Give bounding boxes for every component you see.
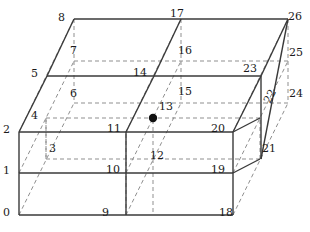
node-label-12: 12	[150, 150, 164, 161]
element-wireframe	[0, 0, 310, 232]
node-label-1: 1	[3, 165, 10, 176]
node-label-8: 8	[58, 12, 65, 23]
visible-edge	[261, 19, 288, 76]
node-label-3: 3	[49, 143, 56, 154]
node-label-13: 13	[159, 101, 173, 112]
node-label-7: 7	[70, 45, 77, 56]
center-node-dot	[149, 114, 157, 122]
node-label-17: 17	[170, 8, 184, 19]
node-label-10: 10	[106, 164, 120, 175]
node-label-25: 25	[289, 47, 303, 58]
node-label-2: 2	[3, 124, 10, 135]
node-label-19: 19	[211, 164, 225, 175]
node-label-9: 9	[102, 207, 109, 218]
node-label-21: 21	[262, 143, 276, 154]
node-label-15: 15	[178, 86, 192, 97]
visible-edge	[233, 159, 260, 173]
node-label-20: 20	[211, 123, 225, 134]
node-label-26: 26	[288, 11, 302, 22]
node-label-5: 5	[31, 68, 38, 79]
node-label-4: 4	[31, 110, 38, 121]
node-label-0: 0	[3, 207, 10, 218]
visible-edge	[19, 76, 47, 132]
visible-edge	[233, 76, 261, 132]
node-label-18: 18	[219, 207, 233, 218]
visible-edge	[154, 19, 181, 76]
node-label-24: 24	[289, 88, 303, 99]
node-label-6: 6	[70, 88, 77, 99]
node-label-14: 14	[133, 67, 147, 78]
hexahedral-element-diagram: 0123456789101112131415161718192021222324…	[0, 0, 310, 232]
center-node-marker	[149, 114, 157, 122]
visible-edge	[126, 76, 154, 132]
node-label-16: 16	[178, 45, 192, 56]
node-label-11: 11	[107, 123, 121, 134]
node-label-23: 23	[243, 63, 257, 74]
